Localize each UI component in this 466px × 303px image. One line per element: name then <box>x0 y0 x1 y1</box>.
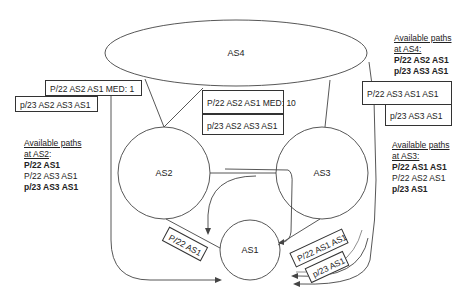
msg-as4-to-as3-p22: P/22 AS2 AS1 MED: 10 <box>202 90 284 114</box>
paths-as3-item: p/23 AS1 <box>392 184 450 195</box>
as4-label: AS4 <box>227 48 244 58</box>
paths-as4-item: p/23 AS3 AS1 <box>394 66 452 77</box>
paths-as4: Available paths at AS4: P/22 AS2 AS1 p/2… <box>394 33 452 77</box>
paths-as2-item: P/22 AS3 AS1 <box>24 171 82 182</box>
as3-label: AS3 <box>313 168 330 178</box>
paths-as4-title1: Available paths <box>394 33 452 44</box>
paths-as3-title1: Available paths <box>392 140 450 151</box>
paths-as3-item: P/22 AS1 AS1 <box>392 162 450 173</box>
paths-as2-title1: Available paths <box>24 138 82 149</box>
paths-as4-title2: at AS4: <box>394 44 452 55</box>
msg-as4-to-as2-p23: p/23 AS2 AS3 AS1 <box>15 96 98 112</box>
paths-as2-item: P/22 AS1 <box>24 160 82 171</box>
msg-as3-to-as4-p23: p/23 AS3 AS1 <box>385 104 452 126</box>
as1-label: AS1 <box>241 245 258 255</box>
paths-as2-colon: : <box>49 149 51 159</box>
paths-as3: Available paths at AS3: P/22 AS1 AS1 P/2… <box>392 140 450 195</box>
as2-label: AS2 <box>155 168 172 178</box>
msg-as4-to-as3-p23: p/23 AS2 AS3 AS1 <box>202 114 284 135</box>
paths-as2-title2: at AS2 <box>24 149 49 159</box>
paths-as3-title2: at AS3: <box>392 151 450 162</box>
paths-as2-item: p/23 AS3 AS1 <box>24 182 82 193</box>
paths-as4-item: P/22 AS2 AS1 <box>394 55 452 66</box>
paths-as2: Available paths at AS2: P/22 AS1 P/22 AS… <box>24 138 82 193</box>
msg-as3-to-as4-p22: P/22 AS3 AS1 AS1 <box>362 81 452 105</box>
msg-as4-to-as2-p22: P/22 AS2 AS1 MED: 1 <box>45 80 142 96</box>
paths-as3-item: P/22 AS2 AS1 <box>392 173 450 184</box>
